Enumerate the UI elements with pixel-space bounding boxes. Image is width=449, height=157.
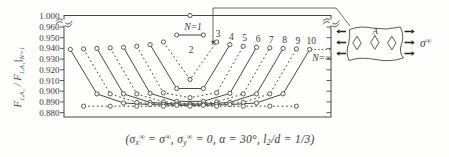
right-tension-arrows-icon — [405, 29, 415, 55]
data-point — [241, 104, 245, 108]
figure-caption: (σx∞ = σ∞, σy∞ = 0, α = 30°, l2/d = 1/3) — [30, 132, 410, 147]
series-2: 2 — [177, 35, 204, 54]
y-axis-tick-labels: 1.0000.9600.9500.9400.9300.9200.9100.900… — [39, 11, 60, 118]
text-fragment: 1,A₁ — [18, 89, 26, 101]
text-fragment: 1,A₁ — [18, 62, 26, 74]
y-axis-title: F1,A₁ / F1,A₁|N=1 — [8, 31, 28, 123]
text-fragment: / — [12, 81, 23, 89]
tick-label: 0.940 — [39, 43, 60, 53]
series-N1: N=1 — [183, 22, 202, 32]
text-fragment: /d = 1/3) — [271, 133, 315, 145]
data-point — [294, 104, 298, 108]
data-point — [188, 77, 192, 81]
data-point — [268, 104, 272, 108]
series-label: 10 — [306, 36, 316, 46]
data-point — [108, 46, 112, 50]
data-point — [254, 45, 258, 49]
data-point — [215, 91, 219, 95]
data-point — [82, 104, 86, 108]
data-point — [135, 104, 139, 108]
data-point — [175, 86, 179, 90]
text-fragment: N=1 — [18, 47, 26, 60]
sigma-superscript: ∞ — [426, 36, 432, 45]
data-point — [135, 44, 139, 48]
data-point — [82, 47, 86, 51]
data-point — [228, 102, 232, 106]
text-fragment: F — [12, 101, 23, 107]
data-point — [161, 104, 165, 108]
data-point — [228, 43, 232, 47]
series-label: 7 — [269, 35, 274, 45]
data-point — [161, 40, 165, 44]
data-point — [161, 91, 165, 95]
tension-arrow-head — [336, 51, 339, 55]
series-label: 2 — [189, 45, 194, 55]
tick-label: 0.920 — [39, 65, 60, 75]
tick-label: 0.930 — [39, 54, 60, 64]
data-point — [241, 92, 245, 96]
figure-container: 1.0000.9600.9500.9400.9300.9200.9100.900… — [0, 0, 449, 157]
text-fragment: , σ — [171, 133, 183, 145]
data-point — [201, 86, 205, 90]
data-point — [254, 101, 258, 105]
tick-label: 0.910 — [39, 76, 60, 86]
data-point — [268, 92, 272, 96]
data-point — [148, 102, 152, 106]
inset-plate-diagram: Aσ∞ — [336, 26, 431, 61]
data-point — [281, 46, 285, 50]
left-tension-arrows-icon — [336, 29, 346, 55]
data-point — [121, 101, 125, 105]
series-label: N=1 — [183, 22, 202, 32]
y-axis-ticks — [60, 27, 331, 113]
data-point — [268, 46, 272, 50]
break-gap — [63, 20, 66, 26]
data-point — [201, 103, 205, 107]
tension-arrow-head — [336, 40, 339, 44]
data-point — [308, 47, 312, 51]
data-point — [294, 47, 298, 51]
break-gap — [330, 20, 333, 26]
data-point — [135, 92, 139, 96]
data-point — [121, 45, 125, 49]
series-N: N=∞ — [84, 49, 332, 106]
data-point — [188, 13, 192, 17]
series-label: N=∞ — [311, 53, 332, 63]
data-point — [108, 92, 112, 96]
data-point — [175, 33, 179, 37]
text-fragment: F — [12, 74, 23, 80]
data-point — [68, 47, 72, 51]
series-label: 3 — [216, 29, 221, 39]
text-fragment: (σ — [125, 133, 135, 145]
data-point — [281, 92, 285, 96]
data-point — [188, 96, 192, 100]
data-point — [108, 104, 112, 108]
hole-label-a: A — [372, 26, 379, 36]
data-point — [95, 46, 99, 50]
data-point — [201, 33, 205, 37]
sigma-infinity-label: σ∞ — [420, 36, 432, 49]
tick-label: 0.900 — [39, 86, 60, 96]
tension-arrow-head — [412, 29, 415, 33]
tick-label: 1.000 — [39, 11, 60, 21]
data-point — [215, 40, 219, 44]
text-fragment: = σ — [145, 133, 165, 145]
data-point — [148, 43, 152, 47]
tick-label: 0.890 — [39, 97, 60, 107]
series-line — [124, 47, 257, 101]
data-point — [215, 104, 219, 108]
series-label: 6 — [256, 34, 261, 44]
data-point — [175, 103, 179, 107]
series-label: 4 — [229, 32, 234, 42]
data-point — [148, 91, 152, 95]
data-point — [121, 92, 125, 96]
series-label: 5 — [242, 33, 247, 43]
data-point — [228, 91, 232, 95]
data-point — [95, 92, 99, 96]
tension-arrow-head — [412, 40, 415, 44]
tension-arrow-head — [336, 29, 339, 33]
tick-label: 0.950 — [39, 33, 60, 43]
text-fragment: = 0, α = 30°, — [192, 133, 263, 145]
series-label: 9 — [296, 36, 301, 46]
data-point — [241, 44, 245, 48]
hole-label-leader — [375, 35, 376, 37]
